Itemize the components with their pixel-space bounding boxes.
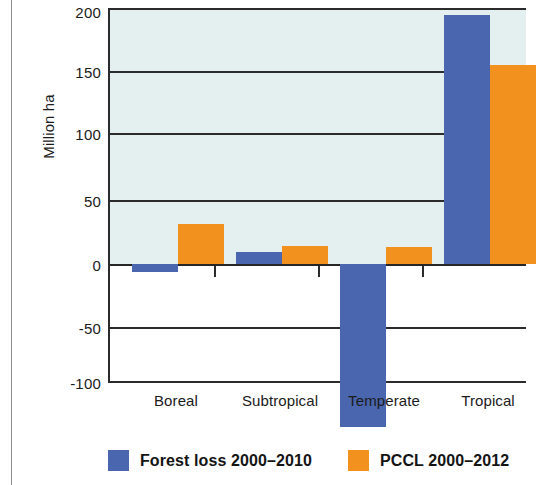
bar-pccl-tropical [490,65,536,264]
legend-entry-forest-loss: Forest loss 2000–2010 [108,450,312,471]
bar-forest-loss-subtropical [236,252,282,264]
y-axis-title: Million ha [40,57,57,197]
bar-pccl-subtropical [282,246,328,264]
bar-pccl-temperate [386,247,432,264]
y-tick-label-0: 0 [92,257,101,274]
legend-entry-pccl: PCCL 2000–2012 [348,450,509,471]
legend-swatch-icon-pccl [348,450,369,471]
category-separator-tick-3 [422,266,424,277]
legend-swatch-icon-forest-loss [108,450,129,471]
x-axis-labels: Boreal Subtropical Temperate Tropical [108,392,526,416]
x-tick-label-subtropical: Subtropical [242,392,318,409]
gridline-minus-50 [110,327,526,329]
x-tick-label-temperate: Temperate [348,392,420,409]
x-tick-label-tropical: Tropical [461,392,515,409]
bar-pccl-boreal [178,224,224,264]
y-tick-label-minus-50: -50 [79,320,101,337]
y-tick-label-minus-100: -100 [70,375,101,392]
bar-forest-loss-boreal [132,264,178,272]
category-separator-tick-2 [318,266,320,277]
y-tick-label-200: 200 [75,4,101,21]
y-tick-label-100: 100 [75,126,101,143]
legend-label-forest-loss: Forest loss 2000–2010 [140,452,312,470]
chart-legend: Forest loss 2000–2010 PCCL 2000–2012 [108,450,522,474]
bar-forest-loss-tropical [444,15,490,264]
plot-area: 200 150 100 50 0 -50 -100 [108,8,526,383]
y-tick-label-150: 150 [75,64,101,81]
category-separator-tick-1 [214,266,216,277]
legend-label-pccl: PCCL 2000–2012 [380,452,509,470]
y-tick-label-50: 50 [84,193,101,210]
x-tick-label-boreal: Boreal [154,392,198,409]
